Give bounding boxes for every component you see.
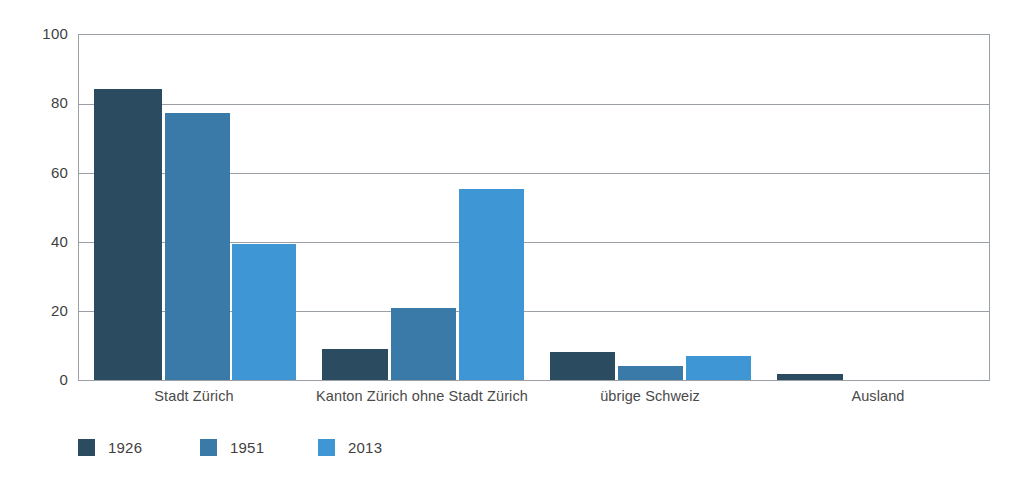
- legend-swatch-1951: [200, 439, 217, 456]
- y-tick-20: 20: [6, 302, 68, 319]
- plot-area: [78, 34, 990, 381]
- legend-item-1951: 1951: [200, 437, 264, 457]
- y-tick-60: 60: [6, 164, 68, 181]
- legend-item-2013: 2013: [318, 437, 382, 457]
- bar-chart: 100 80 60 40 20 0 Stadt Zürich Kanton Zü…: [0, 0, 1030, 480]
- legend-item-1926: 1926: [78, 437, 142, 457]
- bar-2013-kanton-zuerich: [459, 189, 524, 381]
- x-axis: Stadt Zürich Kanton Zürich ohne Stadt Zü…: [78, 388, 990, 410]
- bar-1951-kanton-zuerich: [391, 308, 456, 381]
- bar-1951-stadt-zuerich: [165, 113, 230, 380]
- legend-label-1926: 1926: [108, 439, 142, 456]
- bar-1926-kanton-zuerich: [322, 349, 388, 380]
- legend-label-1951: 1951: [230, 439, 264, 456]
- bar-2013-stadt-zuerich: [232, 244, 296, 380]
- x-label-ausland: Ausland: [762, 388, 994, 404]
- y-tick-40: 40: [6, 233, 68, 250]
- y-tick-80: 80: [6, 94, 68, 111]
- legend-label-2013: 2013: [348, 439, 382, 456]
- bar-1926-ausland: [777, 374, 843, 380]
- bar-2013-uebrige-schweiz: [686, 356, 751, 380]
- bar-1926-uebrige-schweiz: [550, 352, 615, 380]
- legend-swatch-1926: [78, 439, 95, 456]
- bars-layer: [79, 35, 989, 380]
- bar-1926-stadt-zuerich: [94, 89, 162, 381]
- bar-1951-uebrige-schweiz: [618, 366, 683, 380]
- x-label-kanton-zuerich: Kanton Zürich ohne Stadt Zürich: [306, 388, 538, 404]
- legend-swatch-2013: [318, 439, 335, 456]
- y-tick-0: 0: [6, 371, 68, 388]
- y-tick-100: 100: [6, 25, 68, 42]
- x-label-uebrige-schweiz: übrige Schweiz: [534, 388, 766, 404]
- x-label-stadt-zuerich: Stadt Zürich: [78, 388, 310, 404]
